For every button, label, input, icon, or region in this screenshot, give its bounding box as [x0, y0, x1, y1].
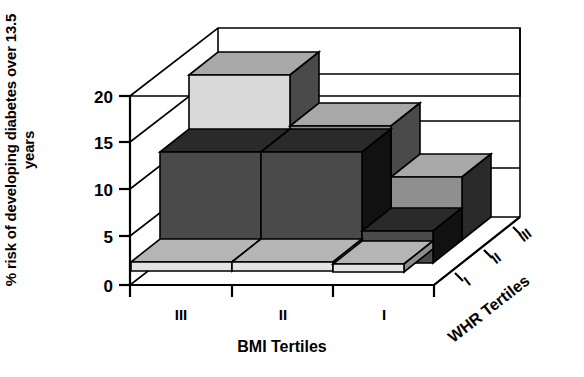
z-tick-III: III — [515, 225, 534, 245]
y-tick-10: 10 — [94, 181, 113, 200]
y-tick-15: 15 — [94, 134, 113, 153]
x-tick-II: II — [279, 306, 287, 323]
z-tick-II: II — [488, 249, 504, 266]
y-tick-5: 5 — [104, 228, 113, 247]
x-tick-III: III — [175, 306, 188, 323]
y-tick-0: 0 — [104, 277, 113, 296]
x-axis-title: BMI Tertiles — [237, 338, 327, 355]
x-tick-I: I — [382, 306, 386, 323]
plot-area: 20 15 10 5 0 III II I I II III BMI Terti… — [0, 0, 584, 377]
y-tick-20: 20 — [94, 88, 113, 107]
z-axis-title: WHR Tertiles — [445, 272, 533, 346]
y-axis — [119, 96, 131, 285]
chart-3d-bar: % risk of developing diabetes over 13.5 … — [0, 0, 584, 377]
x-axis — [130, 285, 434, 297]
y-tick-labels: 20 15 10 5 0 — [94, 88, 113, 296]
x-tick-labels: III II I — [175, 306, 386, 323]
